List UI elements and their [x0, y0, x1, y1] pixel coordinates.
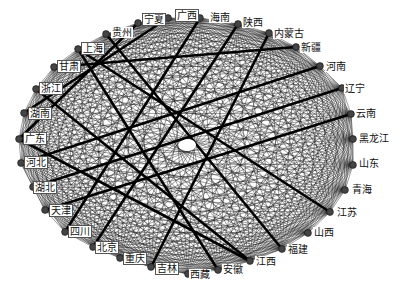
network-node	[215, 267, 222, 274]
node-label: 海南	[209, 12, 231, 23]
network-node	[235, 21, 242, 28]
node-label: 甘肃	[58, 61, 80, 72]
node-label: 河北	[25, 157, 47, 168]
node-label: 广西	[176, 10, 198, 21]
network-node	[75, 46, 82, 53]
node-label: 湖南	[29, 108, 51, 119]
node-label: 青海	[351, 184, 373, 195]
network-node	[317, 63, 324, 70]
node-label: 黑龙江	[358, 133, 390, 144]
node-label: 内蒙古	[273, 28, 305, 39]
network-node	[148, 264, 155, 271]
node-label: 陕西	[242, 17, 264, 28]
node-label: 上海	[82, 43, 104, 54]
network-node	[266, 30, 273, 37]
node-label: 福建	[287, 244, 309, 255]
network-node	[117, 255, 124, 262]
network-diagram: 宁夏广西海南陕西内蒙古新疆河南辽宁云南黑龙江山东青海江苏山西福建江西安徽西藏吉林…	[0, 0, 402, 291]
node-label: 江苏	[336, 207, 358, 218]
network-node	[165, 15, 172, 22]
node-label: 湖北	[34, 182, 56, 193]
network-node	[350, 136, 357, 143]
node-label: 山西	[313, 227, 335, 238]
node-label: 贵州	[111, 27, 133, 38]
network-node	[33, 86, 40, 93]
node-label: 广东	[24, 133, 46, 144]
node-label: 安徽	[222, 264, 244, 275]
network-node	[42, 207, 49, 214]
network-node	[305, 230, 312, 237]
network-node	[348, 111, 355, 118]
network-node	[103, 31, 110, 38]
node-label: 北京	[96, 242, 118, 253]
node-label: 宁夏	[143, 14, 165, 25]
node-label: 江西	[255, 256, 277, 267]
node-label: 天津	[50, 205, 72, 216]
node-label: 新疆	[300, 42, 322, 53]
network-node	[21, 110, 28, 117]
network-node	[342, 187, 349, 194]
network-node	[247, 258, 254, 265]
node-label: 西藏	[189, 269, 211, 280]
center-hole	[180, 139, 196, 151]
network-node	[62, 229, 69, 236]
network-node	[51, 64, 58, 71]
network-node	[135, 20, 142, 27]
network-node	[293, 44, 300, 51]
node-label: 浙江	[40, 83, 62, 94]
node-label: 山东	[358, 158, 380, 169]
node-label: 云南	[355, 108, 377, 119]
network-node	[18, 160, 25, 167]
node-label: 吉林	[156, 263, 178, 274]
network-node	[327, 209, 334, 216]
network-node	[16, 136, 23, 143]
network-graph-canvas	[0, 0, 402, 291]
network-node	[350, 162, 357, 169]
network-node	[279, 246, 286, 253]
node-label: 重庆	[124, 253, 146, 264]
node-label: 河南	[325, 61, 347, 72]
node-label: 四川	[69, 226, 91, 237]
node-label: 辽宁	[344, 83, 366, 94]
